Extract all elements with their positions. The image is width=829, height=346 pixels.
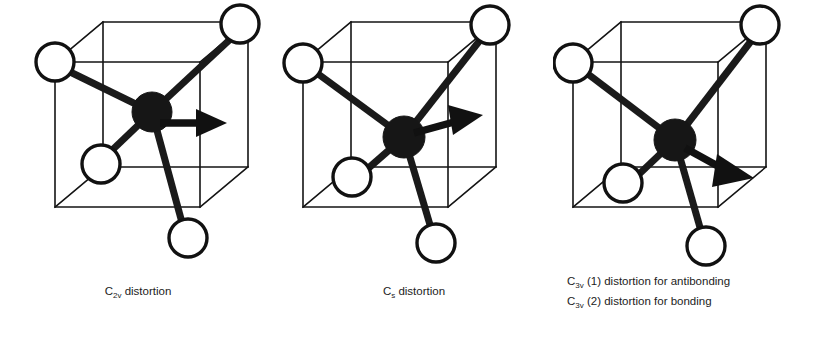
caption-cs: Cs distortion <box>276 282 552 302</box>
caption-c2v: C2v distortion <box>0 282 276 302</box>
symmetry-subscript: s <box>391 291 395 300</box>
molecule-diagram-c2v <box>0 0 276 280</box>
caption-c3v: C3v (1) distortion for antibonding C3v (… <box>553 272 829 312</box>
ligand-atom <box>604 164 642 202</box>
panel-c2v: C2v distortion <box>0 0 276 346</box>
ligand-atom <box>471 6 509 44</box>
ligand-atom <box>169 219 207 257</box>
ligand-atom <box>82 145 120 183</box>
caption-text: distortion <box>395 285 445 297</box>
ligand-atom <box>554 44 592 82</box>
panel-cs: Cs distortion <box>276 0 552 346</box>
caption-line: C3v (1) distortion for antibonding <box>567 272 829 292</box>
symmetry-subscript: 3v <box>575 281 583 290</box>
caption-line: Cs distortion <box>276 282 552 302</box>
caption-text: (1) distortion for antibonding <box>584 275 730 287</box>
caption-line: C2v distortion <box>0 282 276 302</box>
panel-c3v: C3v (1) distortion for antibonding C3v (… <box>553 0 829 346</box>
ligand-atom <box>417 224 455 262</box>
ligand-atom <box>687 227 725 265</box>
distortion-modes-figure: C2v distortion <box>0 0 829 346</box>
symmetry-symbol: C <box>105 285 113 297</box>
molecule-diagram-cs <box>276 0 552 280</box>
caption-text: (2) distortion for bonding <box>584 295 712 307</box>
ligand-atom <box>333 158 371 196</box>
ligand-atom <box>36 43 74 81</box>
ligand-atom <box>741 6 779 44</box>
symmetry-subscript: 2v <box>113 291 121 300</box>
symmetry-subscript: 3v <box>575 301 583 310</box>
caption-line: C3v (2) distortion for bonding <box>567 292 829 312</box>
central-atom <box>383 116 425 158</box>
ligand-atom <box>284 44 322 82</box>
caption-text: distortion <box>121 285 171 297</box>
molecule-diagram-c3v <box>553 0 829 280</box>
symmetry-symbol: C <box>383 285 391 297</box>
ligand-atom <box>221 5 259 43</box>
